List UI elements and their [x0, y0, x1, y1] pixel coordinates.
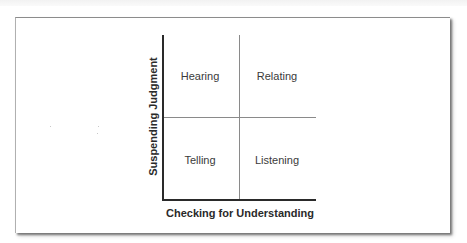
- x-axis-line: [162, 199, 316, 201]
- quadrant-listening: Listening: [239, 154, 315, 166]
- y-axis-label: Suspending Judgment: [147, 32, 160, 202]
- top-edge-strip: [0, 0, 467, 6]
- horizontal-divider: [162, 117, 316, 118]
- scan-speck: [50, 126, 51, 127]
- scan-speck: [98, 126, 99, 127]
- y-axis-line: [162, 35, 164, 200]
- figure-frame: [15, 17, 450, 233]
- quadrant-telling: Telling: [162, 154, 238, 166]
- quadrant-hearing: Hearing: [162, 70, 238, 82]
- quadrant-relating: Relating: [239, 70, 315, 82]
- scan-speck: [97, 133, 98, 134]
- x-axis-label: Checking for Understanding: [150, 207, 330, 220]
